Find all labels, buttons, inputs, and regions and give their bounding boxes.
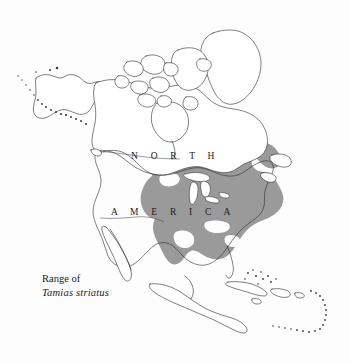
continent-label-america: A M E R I C A bbox=[111, 207, 236, 217]
legend-caption-species-name: Tamias striatus bbox=[42, 286, 109, 300]
range-map-figure: N O R T H A M E R I C A Range of Tamias … bbox=[0, 0, 350, 363]
coastline-central-america bbox=[149, 284, 247, 333]
coastline-alaska bbox=[33, 75, 103, 119]
lake-huron bbox=[201, 181, 211, 197]
range-legend-caption: Range of Tamias striatus bbox=[42, 272, 109, 300]
coastline-yucatan bbox=[185, 276, 193, 299]
bahamas-islands bbox=[244, 269, 277, 285]
continent-label-north: N O R T H bbox=[131, 151, 220, 161]
coastline-jamaica bbox=[252, 299, 261, 304]
coastline-puerto-rico bbox=[295, 293, 304, 298]
legend-caption-line1: Range of bbox=[42, 272, 109, 286]
coastline-cuba bbox=[226, 282, 267, 296]
coastline-hispaniola bbox=[271, 289, 291, 298]
map-canvas bbox=[0, 0, 350, 363]
alaska-offshore-islets bbox=[35, 67, 58, 73]
